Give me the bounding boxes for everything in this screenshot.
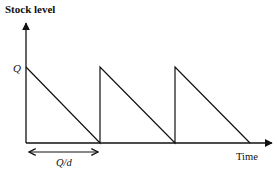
peak-label-q: Q [13, 62, 21, 74]
stock-level-sawtooth [26, 67, 250, 143]
y-axis-label: Stock level [5, 3, 55, 15]
x-axis-label: Time [236, 151, 258, 162]
inventory-diagram: Stock level Q Time Q/d [0, 0, 278, 173]
cycle-length-label: Q/d [56, 157, 73, 168]
